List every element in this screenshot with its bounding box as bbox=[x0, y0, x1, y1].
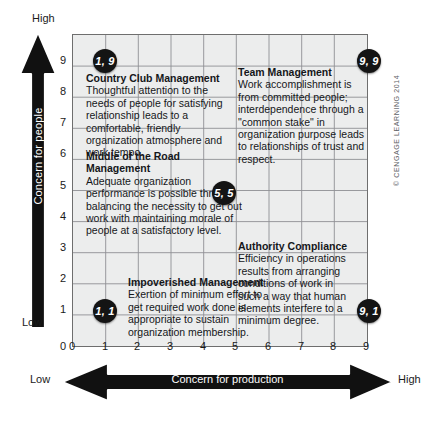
y-axis-low-label: Low bbox=[22, 316, 42, 328]
x-tick-5: 5 bbox=[228, 340, 242, 352]
x-tick-1: 1 bbox=[98, 340, 112, 352]
y-tick-7: 7 bbox=[52, 116, 66, 128]
marker-9-1: 9, 1 bbox=[357, 299, 381, 323]
concern-for-production-axis-arrow: Concern for production bbox=[60, 360, 395, 404]
marker-5-5: 5, 5 bbox=[212, 181, 236, 205]
style-title-team: Team Management bbox=[238, 66, 373, 78]
x-axis-low-label: Low bbox=[30, 373, 50, 385]
marker-1-1: 1, 1 bbox=[93, 299, 117, 323]
x-tick-3: 3 bbox=[163, 340, 177, 352]
x-tick-4: 4 bbox=[196, 340, 210, 352]
x-tick-0: 0 bbox=[65, 340, 79, 352]
style-title-country-club: Country Club Management bbox=[86, 72, 236, 84]
style-body-team: Work accomplishment is from committed pe… bbox=[238, 78, 373, 165]
marker-9-9: 9, 9 bbox=[357, 49, 381, 73]
style-title-authority-compliance: Authority Compliance bbox=[238, 240, 353, 252]
x-axis-high-label: High bbox=[398, 373, 421, 385]
y-tick-2: 2 bbox=[52, 272, 66, 284]
style-block-team: Team Management Work accomplishment is f… bbox=[238, 66, 373, 165]
y-tick-9: 9 bbox=[52, 54, 66, 66]
copyright-notice: © CENGAGE LEARNING 2014 bbox=[393, 36, 400, 186]
managerial-grid-figure: Concern for people High Low Concern for … bbox=[0, 0, 428, 426]
x-tick-8: 8 bbox=[326, 340, 340, 352]
marker-1-9: 1, 9 bbox=[93, 49, 117, 73]
x-tick-9: 9 bbox=[359, 340, 373, 352]
y-tick-5: 5 bbox=[52, 179, 66, 191]
style-body-country-club: Thoughtful attention to the needs of peo… bbox=[86, 84, 236, 158]
y-tick-8: 8 bbox=[52, 85, 66, 97]
y-tick-0: 0 bbox=[52, 340, 66, 352]
y-tick-6: 6 bbox=[52, 147, 66, 159]
y-tick-4: 4 bbox=[52, 210, 66, 222]
y-tick-1: 1 bbox=[52, 303, 66, 315]
y-tick-3: 3 bbox=[52, 241, 66, 253]
x-tick-6: 6 bbox=[261, 340, 275, 352]
style-body-authority-compliance: Efficiency in operations results from ar… bbox=[238, 252, 353, 326]
style-block-country-club: Country Club Management Thoughtful atten… bbox=[86, 72, 236, 159]
y-axis-high-label: High bbox=[32, 12, 55, 24]
x-tick-7: 7 bbox=[294, 340, 308, 352]
style-block-authority-compliance: Authority Compliance Efficiency in opera… bbox=[238, 240, 353, 327]
x-tick-2: 2 bbox=[130, 340, 144, 352]
x-axis-label: Concern for production bbox=[60, 373, 395, 385]
style-title-middle-of-the-road: Middle of the Road Management bbox=[86, 150, 246, 175]
